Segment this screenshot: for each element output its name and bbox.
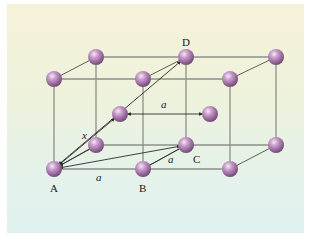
label-a-center-distance: a (161, 98, 167, 110)
label-x-diagonal: x (81, 129, 87, 141)
label-a: A (50, 182, 58, 194)
lattice-diagram: A B C D a a a x (0, 0, 312, 240)
atom-body-center-right (202, 106, 218, 122)
front-face-edges (54, 79, 230, 169)
atom-back-top-left (88, 49, 104, 65)
atom-front-bottom-left-a (46, 161, 62, 177)
atom-back-top-middle-d (178, 49, 194, 65)
depth-edges (54, 57, 276, 169)
atom-front-top-right (222, 71, 238, 87)
atom-body-center-left (112, 106, 128, 122)
distance-arrows (58, 61, 203, 168)
atom-back-bottom-left (88, 137, 104, 153)
atom-front-top-left (46, 71, 62, 87)
label-a-bc-edge: a (168, 153, 174, 165)
atom-back-top-right (268, 49, 284, 65)
label-d: D (182, 36, 190, 48)
atom-back-bottom-middle-c (178, 137, 194, 153)
arrow-a-to-center (59, 118, 115, 165)
atom-front-bottom-middle-b (135, 161, 151, 177)
label-b: B (139, 182, 146, 194)
label-a-bottom-edge: a (96, 171, 102, 183)
atom-front-top-middle (135, 71, 151, 87)
label-c: C (193, 153, 200, 165)
atom-back-bottom-right (268, 137, 284, 153)
atom-front-bottom-right (222, 161, 238, 177)
